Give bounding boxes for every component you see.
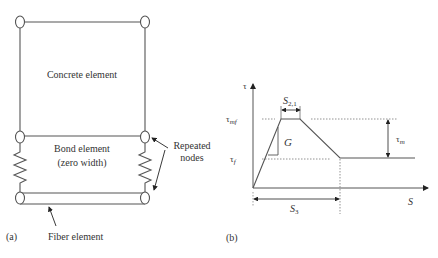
bond-element-label-line1: Bond element (54, 143, 110, 154)
node-top-left (16, 16, 25, 28)
node-top-right (141, 16, 150, 28)
bond-spring-right (139, 142, 151, 193)
tau-mf-label: τmf (226, 114, 238, 126)
node-bottom-right (141, 192, 150, 204)
concrete-element-label: Concrete element (47, 69, 117, 80)
node-mid-left (16, 131, 25, 143)
fiber-element-label: Fiber element (48, 231, 103, 242)
tau-f-label: τf (230, 154, 237, 166)
repeated-nodes-arrows (152, 138, 168, 190)
s21-label: S2,1 (283, 95, 297, 108)
nodes (16, 16, 150, 204)
tau-axis-label: τ (243, 81, 247, 91)
node-bottom-left (16, 192, 25, 204)
s-axis-label: S (408, 196, 413, 207)
panel-b-caption: (b) (226, 232, 238, 244)
fiber-pointer-arrow (49, 207, 56, 226)
bond-spring-left (14, 142, 26, 193)
repeated-nodes-label-line2: nodes (180, 152, 203, 163)
reference-lines (262, 119, 398, 214)
node-mid-right (141, 131, 150, 143)
tau-m-label: τm (396, 134, 405, 146)
panel-a: Concrete element Bond element (zero widt… (6, 16, 211, 243)
panel-b: τ S G S2,1 τm τmf τf S3 (b) (226, 81, 428, 244)
bond-slip-curve (253, 119, 415, 188)
repeated-nodes-label-line1: Repeated (173, 140, 210, 151)
s3-label: S3 (290, 203, 299, 216)
g-label: G (284, 136, 292, 148)
panel-a-caption: (a) (6, 231, 17, 243)
bond-element-label-line2: (zero width) (57, 157, 106, 169)
diagram-canvas: Concrete element Bond element (zero widt… (0, 0, 438, 258)
fiber-element (20, 193, 145, 204)
